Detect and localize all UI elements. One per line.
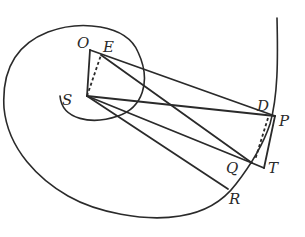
label-P: P — [278, 112, 290, 130]
label-O: O — [77, 34, 89, 52]
label-S: S — [62, 91, 72, 109]
segment-SR — [87, 96, 228, 189]
spiral-diagram: O E S D P Q T R — [0, 0, 305, 237]
label-E: E — [102, 38, 114, 56]
label-D: D — [256, 97, 269, 115]
segment-EQ — [101, 55, 252, 163]
segment-SQ — [87, 96, 252, 163]
label-T: T — [268, 159, 279, 177]
segment-QT — [252, 163, 264, 168]
label-Q: Q — [226, 159, 238, 177]
label-R: R — [228, 190, 240, 208]
